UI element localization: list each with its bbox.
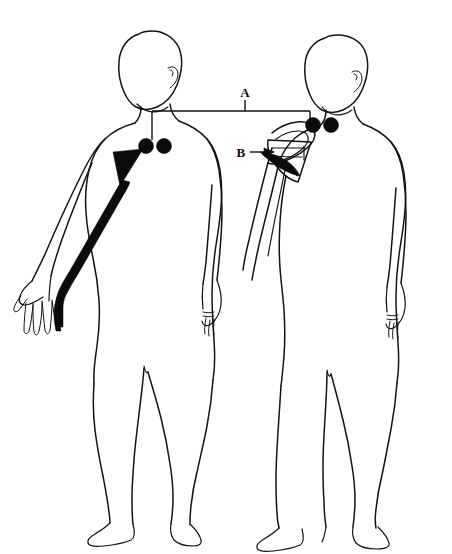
left-electrode-2: [157, 139, 172, 154]
right-electrode-1: [306, 118, 321, 133]
right-electrode-2: [324, 118, 339, 133]
anatomy-diagram-canvas: A B: [0, 0, 452, 554]
callout-b-label: B: [237, 145, 246, 160]
callout-a-label: A: [240, 85, 250, 100]
left-electrode-1: [139, 139, 154, 154]
